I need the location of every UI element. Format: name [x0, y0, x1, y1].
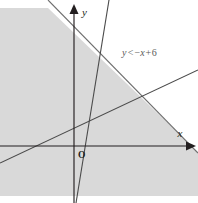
graph-figure: y x O y<−x+6: [0, 0, 198, 203]
coordinate-plane-svg: y x O y<−x+6: [0, 0, 198, 203]
inequality-relation: <: [128, 47, 134, 58]
origin-label: O: [78, 150, 85, 160]
inequality-rhs-const: 6: [152, 47, 157, 58]
inequality-rhs-op: +: [145, 47, 151, 58]
inequality-annotation: y<−x+6: [121, 47, 157, 58]
x-axis-label: x: [177, 127, 183, 139]
inequality-rhs-var: x: [139, 47, 145, 58]
y-axis-label: y: [81, 6, 87, 18]
inequality-label: y<−x+6: [121, 47, 157, 58]
inequality-lhs: y: [121, 47, 127, 58]
